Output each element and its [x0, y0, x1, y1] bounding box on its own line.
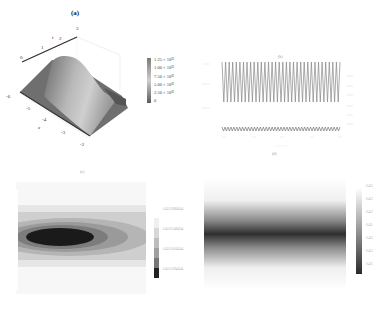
x-tick-0: -6 — [6, 94, 10, 99]
panel-a: (a) 0 1 — [0, 0, 200, 150]
oscillation-plot — [190, 20, 385, 150]
panel-b: (b) — [190, 20, 385, 150]
colorbar-d-tick-1: 0.451 — [366, 197, 373, 201]
colorbar-a-tick-3: 5.00 × 10¹² — [154, 82, 174, 87]
t-axis-label: t — [52, 35, 53, 40]
colorbar-a-tick-0: 1.25 × 10¹³ — [154, 57, 174, 62]
contour-plot — [0, 150, 195, 323]
colorbar-d-tick-2: 0.451 — [366, 210, 373, 214]
colorbar-c-tick-0: 0.451516804544 — [163, 207, 183, 211]
colorbar-a-tick-2: 7.50 × 10¹² — [154, 74, 174, 79]
colorbar-d-tick-5: 0.451 — [366, 249, 373, 253]
t-tick-1: 1 — [41, 45, 44, 50]
colorbar-a-tick-4: 2.50 × 10¹² — [154, 90, 174, 95]
colorbar-c-tick-3: 0.451512844544 — [163, 267, 183, 271]
x-tick-4: -2 — [80, 142, 84, 147]
colorbar-d-tick-6: 0.451 — [366, 262, 373, 266]
t-tick-0: 0 — [20, 55, 23, 60]
x-tick-3: -3 — [61, 130, 65, 135]
t-tick-3: 3 — [76, 26, 79, 31]
panel-c: (c) 0.451516804544 0.451515484544 0.4515… — [0, 150, 195, 323]
colorbar-d-tick-0: 0.451 — [366, 184, 373, 188]
colorbar-a-tick-5: 0 — [154, 98, 156, 103]
t-tick-2: 2 — [59, 36, 62, 41]
colorbar-d-tick-4: 0.451 — [366, 236, 373, 240]
x-tick-1: -5 — [26, 106, 30, 111]
colorbar-a-tick-1: 1.00 × 10¹³ — [154, 65, 174, 70]
colorbar-c-tick-1: 0.451515484544 — [163, 227, 183, 231]
colorbar-d-tick-3: 0.451 — [366, 223, 373, 227]
density-plot — [190, 150, 385, 323]
panel-d: (d) 0.451 0.451 0.451 0.451 0.451 0.451 … — [190, 150, 385, 323]
colorbar-a — [147, 58, 151, 103]
colorbar-c-tick-2: 0.451514164544 — [163, 247, 183, 251]
x-tick-2: -4 — [42, 117, 46, 122]
x-axis-label: x — [38, 125, 40, 130]
